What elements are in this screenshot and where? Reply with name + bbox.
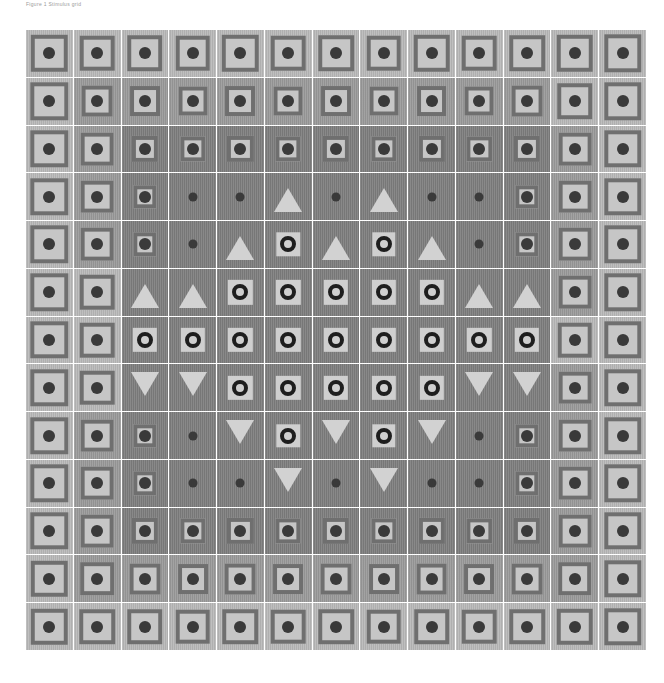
grid-cell[interactable] — [551, 317, 598, 364]
grid-cell[interactable] — [551, 364, 598, 411]
grid-cell[interactable] — [217, 269, 264, 316]
grid-cell[interactable] — [122, 317, 169, 364]
grid-cell[interactable] — [122, 78, 169, 125]
grid-cell[interactable] — [74, 555, 121, 602]
grid-cell[interactable] — [74, 126, 121, 173]
grid-cell[interactable] — [408, 317, 455, 364]
grid-cell[interactable] — [313, 173, 360, 220]
grid-cell[interactable] — [360, 173, 407, 220]
grid-cell[interactable] — [217, 126, 264, 173]
grid-cell[interactable] — [456, 555, 503, 602]
grid-cell[interactable] — [26, 30, 73, 77]
grid-cell[interactable] — [26, 364, 73, 411]
grid-cell[interactable] — [360, 221, 407, 268]
grid-cell[interactable] — [360, 460, 407, 507]
grid-cell[interactable] — [169, 412, 216, 459]
grid-cell[interactable] — [360, 603, 407, 650]
grid-cell[interactable] — [599, 412, 646, 459]
grid-cell[interactable] — [504, 460, 551, 507]
grid-cell[interactable] — [408, 508, 455, 555]
grid-cell[interactable] — [265, 221, 312, 268]
grid-cell[interactable] — [504, 126, 551, 173]
grid-cell[interactable] — [456, 508, 503, 555]
grid-cell[interactable] — [599, 221, 646, 268]
grid-cell[interactable] — [408, 78, 455, 125]
grid-cell[interactable] — [408, 126, 455, 173]
grid-cell[interactable] — [313, 30, 360, 77]
grid-cell[interactable] — [360, 30, 407, 77]
grid-cell[interactable] — [122, 603, 169, 650]
grid-cell[interactable] — [408, 173, 455, 220]
grid-cell[interactable] — [217, 78, 264, 125]
grid-cell[interactable] — [265, 508, 312, 555]
grid-cell[interactable] — [408, 30, 455, 77]
grid-cell[interactable] — [551, 603, 598, 650]
grid-cell[interactable] — [265, 78, 312, 125]
grid-cell[interactable] — [265, 269, 312, 316]
grid-cell[interactable] — [551, 269, 598, 316]
grid-cell[interactable] — [26, 460, 73, 507]
grid-cell[interactable] — [26, 508, 73, 555]
grid-cell[interactable] — [360, 317, 407, 364]
grid-cell[interactable] — [122, 412, 169, 459]
grid-cell[interactable] — [122, 30, 169, 77]
grid-cell[interactable] — [551, 508, 598, 555]
grid-cell[interactable] — [408, 555, 455, 602]
grid-cell[interactable] — [217, 221, 264, 268]
grid-cell[interactable] — [504, 173, 551, 220]
grid-cell[interactable] — [265, 317, 312, 364]
grid-cell[interactable] — [599, 269, 646, 316]
grid-cell[interactable] — [26, 412, 73, 459]
grid-cell[interactable] — [74, 221, 121, 268]
grid-cell[interactable] — [313, 317, 360, 364]
grid-cell[interactable] — [599, 555, 646, 602]
grid-cell[interactable] — [26, 126, 73, 173]
grid-cell[interactable] — [456, 317, 503, 364]
grid-cell[interactable] — [122, 555, 169, 602]
grid-cell[interactable] — [74, 603, 121, 650]
grid-cell[interactable] — [217, 603, 264, 650]
grid-cell[interactable] — [456, 126, 503, 173]
grid-cell[interactable] — [265, 30, 312, 77]
grid-cell[interactable] — [360, 78, 407, 125]
grid-cell[interactable] — [408, 221, 455, 268]
grid-cell[interactable] — [456, 30, 503, 77]
grid-cell[interactable] — [169, 364, 216, 411]
grid-cell[interactable] — [504, 269, 551, 316]
grid-cell[interactable] — [169, 78, 216, 125]
grid-cell[interactable] — [74, 317, 121, 364]
grid-cell[interactable] — [122, 269, 169, 316]
grid-cell[interactable] — [456, 221, 503, 268]
grid-cell[interactable] — [599, 364, 646, 411]
grid-cell[interactable] — [551, 30, 598, 77]
grid-cell[interactable] — [504, 221, 551, 268]
grid-cell[interactable] — [217, 317, 264, 364]
grid-cell[interactable] — [360, 269, 407, 316]
grid-cell[interactable] — [504, 317, 551, 364]
grid-cell[interactable] — [599, 126, 646, 173]
grid-cell[interactable] — [26, 173, 73, 220]
grid-cell[interactable] — [122, 126, 169, 173]
grid-cell[interactable] — [504, 78, 551, 125]
grid-cell[interactable] — [313, 412, 360, 459]
grid-cell[interactable] — [122, 221, 169, 268]
grid-cell[interactable] — [408, 364, 455, 411]
grid-cell[interactable] — [551, 78, 598, 125]
grid-cell[interactable] — [313, 364, 360, 411]
grid-cell[interactable] — [265, 364, 312, 411]
grid-cell[interactable] — [26, 603, 73, 650]
grid-cell[interactable] — [265, 412, 312, 459]
grid-cell[interactable] — [504, 555, 551, 602]
grid-cell[interactable] — [74, 364, 121, 411]
grid-cell[interactable] — [599, 173, 646, 220]
grid-cell[interactable] — [599, 78, 646, 125]
grid-cell[interactable] — [360, 508, 407, 555]
grid-cell[interactable] — [551, 221, 598, 268]
grid-cell[interactable] — [313, 221, 360, 268]
grid-cell[interactable] — [265, 126, 312, 173]
grid-cell[interactable] — [504, 364, 551, 411]
grid-cell[interactable] — [169, 30, 216, 77]
grid-cell[interactable] — [599, 460, 646, 507]
grid-cell[interactable] — [313, 603, 360, 650]
grid-cell[interactable] — [26, 78, 73, 125]
